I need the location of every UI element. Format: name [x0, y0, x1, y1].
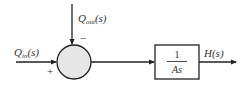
plus-sign: +	[47, 65, 53, 77]
minus-sign: −	[80, 32, 86, 44]
block-denominator: As	[171, 64, 182, 75]
summing-junction-icon	[57, 45, 91, 79]
output-label: H(s)	[203, 47, 224, 60]
q-out-label: Qout(s)	[78, 12, 107, 26]
q-in-label: Qin(s)	[14, 46, 39, 60]
block-diagram: Qout(s) − Qin(s) + 1 As H(s)	[0, 0, 242, 86]
block-numerator: 1	[175, 49, 180, 60]
